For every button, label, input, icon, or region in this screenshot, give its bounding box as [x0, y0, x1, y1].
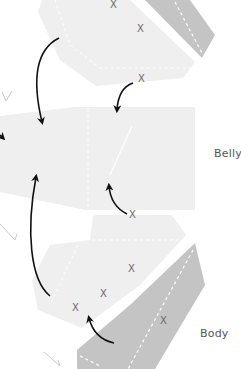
assembly-diagram: X X X X X X X X Belly Body [0, 0, 241, 369]
x-marker: X [129, 209, 136, 220]
x-marker: X [100, 288, 107, 299]
x-marker: X [137, 23, 144, 34]
body-label: Body [200, 327, 229, 340]
x-marker: X [128, 263, 135, 274]
belly-label: Belly [214, 147, 241, 160]
arrow-top-to-belly-mid [117, 83, 133, 110]
x-marker: X [138, 73, 145, 84]
x-marker: X [72, 302, 79, 313]
belly-panel [0, 107, 195, 210]
x-marker: X [110, 0, 117, 10]
x-marker: X [160, 315, 167, 326]
